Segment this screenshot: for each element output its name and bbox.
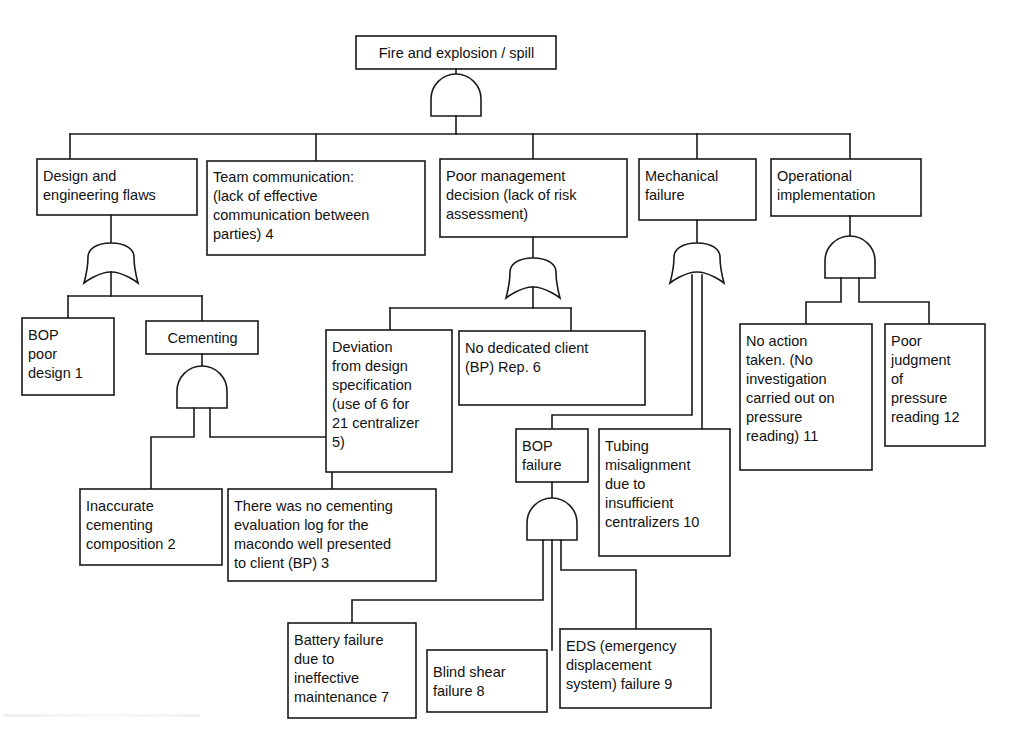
node-box-mechfail[interactable] — [639, 159, 756, 220]
edge-gate-op-out-left — [806, 278, 841, 324]
and-gate-opimpl — [825, 236, 875, 278]
node-box-opimpl[interactable] — [771, 159, 921, 216]
scan-artifact — [4, 714, 200, 717]
node-box-bopdesign[interactable] — [22, 318, 114, 395]
edge-gate-cementing-out-left — [151, 408, 194, 489]
node-box-top[interactable] — [356, 36, 556, 69]
node-box-cementing[interactable] — [146, 321, 258, 354]
node-box-inaccurate[interactable] — [80, 489, 222, 565]
edge-gate-op-out-right — [859, 278, 929, 324]
node-box-poormgmt[interactable] — [440, 159, 627, 237]
and-gate-bopfailure — [527, 498, 577, 540]
and-gate-top — [431, 74, 481, 116]
node-box-bopfailure[interactable] — [516, 429, 588, 482]
fault-tree-diagram: Fire and explosion / spill Design and en… — [0, 0, 1010, 746]
node-box-deviation[interactable] — [326, 330, 452, 472]
node-box-nolog[interactable] — [228, 489, 436, 581]
node-box-poorjudge[interactable] — [885, 324, 985, 446]
node-box-battery[interactable] — [288, 623, 416, 718]
node-box-tubing[interactable] — [599, 429, 730, 556]
node-box-design[interactable] — [37, 159, 197, 215]
edge-gate-cementing-out-right — [210, 408, 332, 489]
node-box-blindshear[interactable] — [427, 650, 547, 712]
node-box-norep[interactable] — [459, 331, 645, 405]
node-box-noaction[interactable] — [740, 324, 872, 470]
fault-tree-svg — [0, 0, 1010, 746]
node-box-eds[interactable] — [560, 629, 711, 708]
node-box-teamcomm[interactable] — [207, 161, 425, 255]
and-gate-cementing — [177, 366, 227, 408]
or-gate-mechfail — [670, 243, 724, 283]
